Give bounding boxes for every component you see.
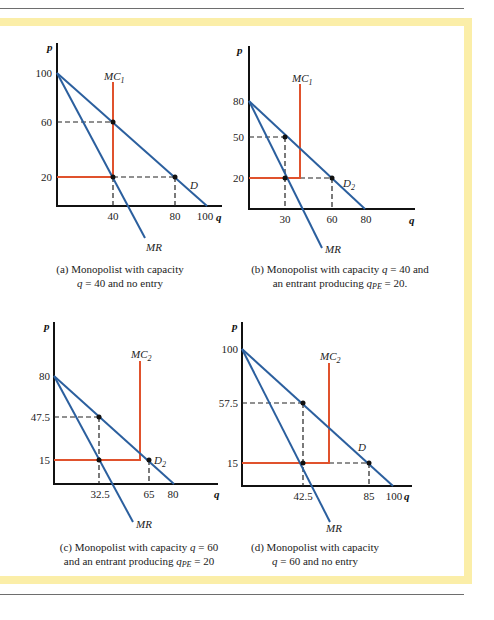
y-tick: 47.5 [31,411,51,423]
x-tick: 80 [170,210,182,222]
mc-label: MC1 [291,72,313,87]
x-tick: 42.5 [293,490,313,502]
mr-label: MR [324,243,341,255]
x-tick: 85 [364,490,376,502]
y-axis-label: p [43,320,50,332]
x-tick: 40 [108,210,120,222]
x-tick: 32.5 [90,488,110,500]
y-tick: 60 [41,116,53,128]
y-tick: 100 [222,343,239,355]
y-tick: 15 [39,454,51,466]
x-tick: 60 [327,213,339,225]
demand-label: D [357,441,366,453]
x-tick: 30 [280,213,292,225]
y-tick: 80 [233,95,245,107]
y-tick: 20 [41,171,53,183]
y-axis-label: p [236,44,243,56]
y-tick: 80 [39,370,51,382]
panel-c: p q 80 47.5 15 32.5 65 80 MC2 D2 MR [31,320,220,530]
mr-label: MR [135,518,152,530]
caption-c: (c) Monopolist with capacity q = 60 and … [44,540,234,572]
caption-a: (a) Monopolist with capacity q = 40 and … [40,262,200,290]
figure-svg: p q 100 60 20 40 80 100 MC1 D MR p q [0,0,494,620]
y-tick: 50 [233,131,245,143]
x-tick: 80 [168,488,180,500]
caption-d: (d) Monopolist with capacity q = 60 and … [240,540,390,568]
mc-label: MC2 [319,350,341,365]
y-tick: 15 [227,457,239,469]
caption-b: (b) Monopolist with capacity q = 40 and … [240,262,440,294]
panel-b: p q 80 50 20 30 60 80 MC1 D2 MR [233,44,415,255]
x-axis-label: q [409,214,415,226]
x-axis-label: q [404,490,410,502]
mc-label: MC2 [130,348,152,363]
x-axis-label: q [216,211,222,223]
y-axis-label: p [231,320,238,332]
y-axis-label: p [46,41,53,53]
y-tick: 57.5 [219,397,239,409]
x-tick: 65 [144,488,156,500]
panel-d: p q 100 57.5 15 42.5 85 100 MC2 D MR [219,320,412,534]
x-axis-label: q [214,488,220,500]
mr-label: MR [145,241,162,253]
x-tick: 80 [361,213,373,225]
x-tick: 100 [197,210,214,222]
demand-label: D [189,179,198,191]
y-tick: 20 [233,172,245,184]
panel-a: p q 100 60 20 40 80 100 MC1 D MR [36,41,223,253]
mr-label: MR [325,522,342,534]
y-tick: 100 [36,67,53,79]
x-tick: 100 [386,490,403,502]
